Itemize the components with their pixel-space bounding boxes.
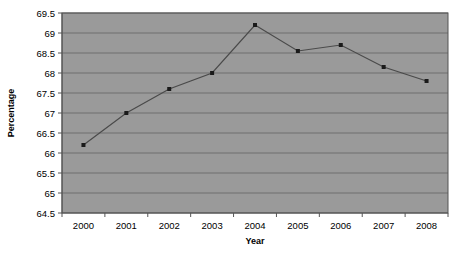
y-axis-tick-label: 69.5 bbox=[37, 8, 56, 19]
x-axis-title: Year bbox=[245, 236, 265, 246]
data-point-marker bbox=[339, 43, 343, 47]
y-axis-tick-label: 67 bbox=[44, 108, 55, 119]
y-axis-tick-label: 66 bbox=[44, 148, 55, 159]
x-axis-tick-label: 2004 bbox=[244, 220, 265, 231]
x-axis-tick-label: 2006 bbox=[330, 220, 351, 231]
y-axis-tick-label: 68 bbox=[44, 68, 55, 79]
data-point-marker bbox=[167, 87, 171, 91]
x-axis-tick-label: 2002 bbox=[159, 220, 180, 231]
line-chart: 64.56565.56666.56767.56868.56969.5200020… bbox=[0, 0, 463, 268]
y-axis-tick-label: 69 bbox=[44, 28, 55, 39]
y-axis-title: Percentage bbox=[6, 89, 16, 138]
data-point-marker bbox=[382, 65, 386, 69]
x-axis-tick-label: 2000 bbox=[73, 220, 94, 231]
x-axis-tick-label: 2003 bbox=[202, 220, 223, 231]
data-point-marker bbox=[253, 23, 257, 27]
y-axis-tick-label: 66.5 bbox=[37, 128, 56, 139]
data-point-marker bbox=[425, 79, 429, 83]
y-axis-tick-label: 67.5 bbox=[37, 88, 56, 99]
data-point-marker bbox=[296, 49, 300, 53]
y-axis-tick-label: 65 bbox=[44, 188, 55, 199]
x-axis-tick-label: 2005 bbox=[287, 220, 308, 231]
x-axis-tick-label: 2007 bbox=[373, 220, 394, 231]
y-axis-tick-label: 65.5 bbox=[37, 168, 56, 179]
data-point-marker bbox=[210, 71, 214, 75]
y-axis-tick-label: 68.5 bbox=[37, 48, 56, 59]
data-point-marker bbox=[124, 111, 128, 115]
x-axis-tick-label: 2001 bbox=[116, 220, 137, 231]
chart-canvas: 64.56565.56666.56767.56868.56969.5200020… bbox=[0, 0, 463, 268]
y-axis-tick-label: 64.5 bbox=[37, 208, 56, 219]
data-point-marker bbox=[81, 143, 85, 147]
x-axis-tick-label: 2008 bbox=[416, 220, 437, 231]
